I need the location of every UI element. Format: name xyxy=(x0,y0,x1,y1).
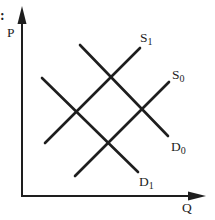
curve-label-s0-subscript: 0 xyxy=(180,73,185,84)
curve-line-d1 xyxy=(42,78,138,172)
text-fragment-colon: : xyxy=(0,8,5,23)
curve-label-s1-base: S xyxy=(140,30,148,45)
curve-label-s1: S1 xyxy=(140,30,153,47)
curve-label-d0: D0 xyxy=(171,139,186,156)
y-axis-arrowhead xyxy=(18,6,27,24)
supply-demand-diagram: : P Q S1 S0 D0 D1 xyxy=(0,0,215,220)
curve-line-s0 xyxy=(75,82,169,176)
y-axis-label: P xyxy=(7,25,15,40)
x-axis-label: Q xyxy=(182,200,192,215)
figure-page: : P Q S1 S0 D0 D1 xyxy=(0,0,215,220)
curve-label-d1: D1 xyxy=(139,174,154,191)
curve-label-d0-base: D xyxy=(171,139,181,154)
curve-line-d0 xyxy=(80,45,168,136)
curve-label-s1-subscript: 1 xyxy=(148,36,153,47)
curve-label-s0: S0 xyxy=(172,67,185,84)
curve-label-d0-subscript: 0 xyxy=(181,145,186,156)
curve-label-d1-base: D xyxy=(139,174,149,189)
diagram-lines-layer xyxy=(18,6,207,201)
curve-label-s0-base: S xyxy=(172,67,180,82)
curve-label-d1-subscript: 1 xyxy=(149,180,154,191)
